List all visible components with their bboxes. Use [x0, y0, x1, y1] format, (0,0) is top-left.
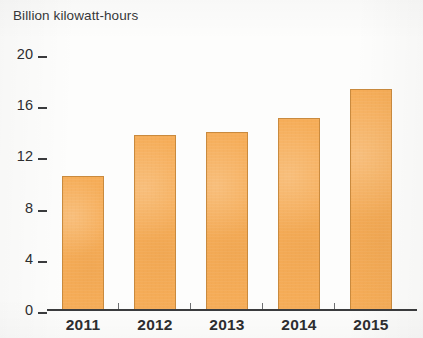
x-axis-tick-mark — [262, 303, 263, 309]
x-axis-tick-mark — [334, 303, 335, 309]
y-axis-tick-mark — [38, 312, 47, 314]
x-axis-tick-mark — [118, 303, 119, 309]
y-axis-tick-label: 20 — [17, 46, 33, 62]
x-axis-label-2015: 2015 — [341, 315, 401, 335]
y-axis-tick-label: 16 — [17, 97, 33, 113]
bar-2014 — [278, 118, 320, 310]
x-axis-label-2011: 2011 — [53, 315, 113, 335]
bar-2011 — [62, 176, 104, 310]
y-axis-tick-16: 16 — [0, 97, 47, 113]
bar-2013 — [206, 132, 248, 310]
y-axis-tick-mark — [38, 210, 47, 212]
y-axis-tick-8: 8 — [0, 200, 47, 216]
y-axis-tick-label: 0 — [25, 302, 33, 318]
y-axis-tick-mark — [38, 261, 47, 263]
x-axis-label-2014: 2014 — [269, 315, 329, 335]
chart-figure: Billion kilowatt-hours 20 16 12 8 4 0 — [0, 0, 423, 338]
x-axis-line — [47, 309, 417, 311]
x-axis-label-2013: 2013 — [197, 315, 257, 335]
plot-area: 20 16 12 8 4 0 — [0, 0, 423, 338]
y-axis-tick-12: 12 — [0, 148, 47, 164]
y-axis-tick-label: 12 — [17, 148, 33, 164]
bar-2012 — [134, 135, 176, 310]
y-axis-tick-mark — [38, 158, 47, 160]
y-axis-tick-label: 8 — [25, 200, 33, 216]
y-axis-tick-mark — [38, 56, 47, 58]
x-axis-tick-mark — [190, 303, 191, 309]
y-axis-tick-0: 0 — [0, 302, 47, 318]
y-axis-tick-label: 4 — [25, 251, 33, 267]
y-axis-tick-mark — [38, 107, 47, 109]
x-axis-label-2012: 2012 — [125, 315, 185, 335]
y-axis-tick-4: 4 — [0, 251, 47, 267]
bar-2015 — [350, 89, 392, 310]
y-axis-tick-20: 20 — [0, 46, 47, 62]
